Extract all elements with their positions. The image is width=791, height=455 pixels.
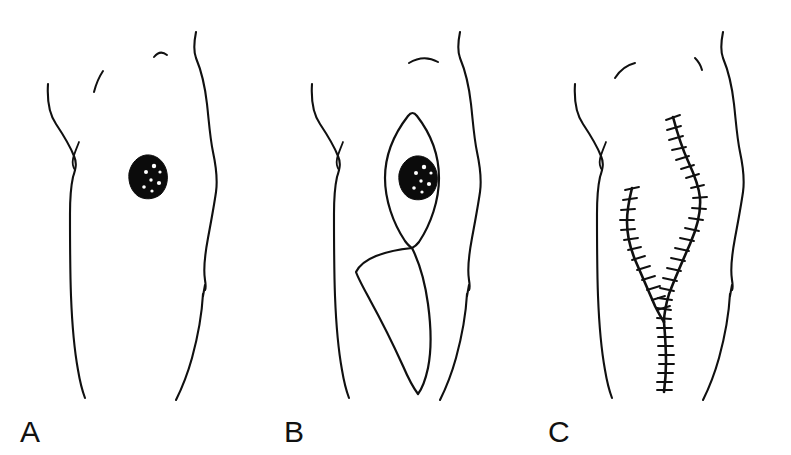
left-torso-contour xyxy=(48,84,85,398)
figure-illustration: A xyxy=(0,0,791,455)
lesion-speckle xyxy=(149,178,152,181)
lesion-group xyxy=(129,155,168,199)
right-thigh-contour xyxy=(703,294,730,400)
right-torso-contour xyxy=(458,32,481,290)
right-thigh-contour xyxy=(440,294,467,400)
panel-a-drawing xyxy=(0,0,264,455)
spine-top-hint-mark xyxy=(409,58,438,63)
panel-label-b: B xyxy=(284,417,305,447)
lesion-speckle xyxy=(157,181,161,185)
spine-top-hint-mark xyxy=(154,53,167,57)
shoulder-blade-hint-mark xyxy=(615,63,635,78)
pigmented-lesion xyxy=(129,155,168,199)
pigmented-lesion xyxy=(399,156,438,200)
lesion-speckle xyxy=(420,190,423,193)
panel-a: A xyxy=(0,0,264,455)
lower-excision-ellipse xyxy=(356,248,431,394)
lesion-speckle xyxy=(427,182,431,186)
right-torso-contour xyxy=(194,32,217,290)
lesion-speckle xyxy=(419,179,422,182)
lesion-speckle xyxy=(429,171,432,174)
lesion-speckle xyxy=(142,185,146,189)
lesion-speckle xyxy=(158,170,161,173)
left-torso-contour xyxy=(575,84,612,398)
panel-label-c: C xyxy=(548,417,570,447)
left-torso-contour xyxy=(312,84,349,398)
suture-line-left-arm xyxy=(627,188,664,322)
spine-top-hint-mark xyxy=(695,58,702,70)
lesion-speckle xyxy=(152,164,156,168)
right-torso-contour xyxy=(721,32,744,290)
lesion-speckle xyxy=(422,165,426,169)
panel-b-drawing xyxy=(264,0,528,455)
lesion-speckle xyxy=(414,171,418,175)
panel-c: C xyxy=(527,0,791,455)
lesion-group xyxy=(399,156,438,200)
lesion-speckle xyxy=(412,186,416,190)
lesion-speckle xyxy=(150,189,153,192)
panel-b: B xyxy=(264,0,528,455)
right-thigh-contour xyxy=(176,294,203,400)
panel-c-drawing xyxy=(527,0,791,455)
panel-label-a: A xyxy=(20,417,41,447)
shoulder-blade-hint-mark xyxy=(94,71,103,92)
lesion-speckle xyxy=(144,170,148,174)
